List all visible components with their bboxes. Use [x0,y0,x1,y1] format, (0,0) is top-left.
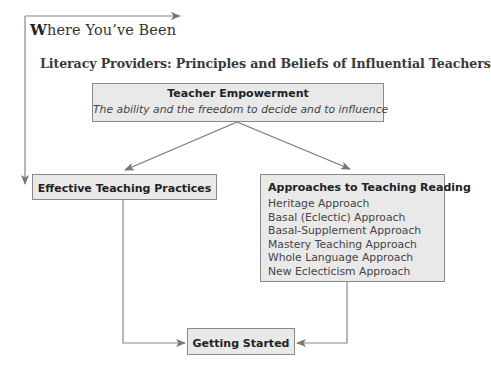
list-item: New Eclecticism Approach [268,265,444,279]
section-heading-text: here You’ve Been [47,22,176,38]
node-approaches-to-teaching-reading: Approaches to Teaching Reading Heritage … [260,174,445,282]
empowerment-to-approaches-arrow [237,122,350,169]
diagram-title: Literacy Providers: Principles and Belie… [40,56,491,71]
list-item: Basal (Eclectic) Approach [268,211,444,225]
node-teacher-empowerment: Teacher Empowerment The ability and the … [92,83,384,122]
list-item: Whole Language Approach [268,251,444,265]
section-heading-initial: W [30,21,47,39]
node-title: Approaches to Teaching Reading [268,181,444,194]
node-subtitle: The ability and the freedom to decide an… [93,103,383,116]
effective-to-started-arrow [123,200,185,343]
approaches-list: Heritage Approach Basal (Eclectic) Appro… [268,197,444,279]
node-title: Teacher Empowerment [93,87,383,100]
approaches-to-started-arrow [297,282,347,343]
empowerment-to-effective-arrow [125,122,237,170]
list-item: Heritage Approach [268,197,444,211]
node-effective-teaching-practices: Effective Teaching Practices [32,174,217,200]
section-heading: Where You’ve Been [30,21,176,39]
list-item: Basal-Supplement Approach [268,224,444,238]
node-title: Effective Teaching Practices [38,182,211,195]
list-item: Mastery Teaching Approach [268,238,444,252]
node-getting-started: Getting Started [187,328,295,355]
node-title: Getting Started [193,337,290,350]
